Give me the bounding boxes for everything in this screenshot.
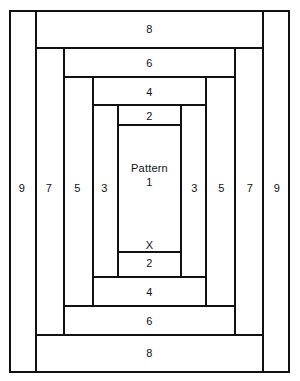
pattern-diagram: 9977553388664422X Pattern 1	[0, 0, 300, 381]
frame-1	[117, 124, 182, 253]
